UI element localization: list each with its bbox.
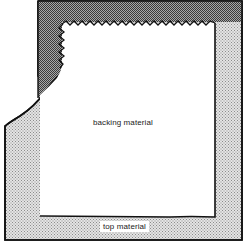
top-material-label: top material [100, 221, 149, 232]
backing-material-label: backing material [93, 118, 153, 127]
